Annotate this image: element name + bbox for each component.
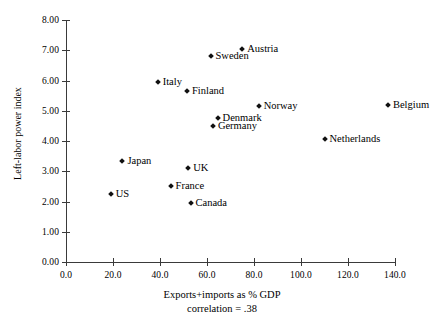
- y-axis-tick: [62, 111, 70, 112]
- diamond-marker-icon: [120, 158, 126, 164]
- data-point-label: US: [116, 188, 129, 199]
- x-axis-tick: [395, 258, 396, 266]
- diamond-marker-icon: [168, 184, 174, 190]
- x-axis-tick-label: 20.0: [93, 270, 133, 280]
- y-axis-tick-label: 7.00: [27, 45, 59, 55]
- data-point-label: Germany: [218, 120, 257, 131]
- data-point-label: France: [176, 180, 205, 191]
- x-axis-tick-label: 0.0: [46, 270, 86, 280]
- y-axis-tick: [62, 171, 70, 172]
- x-axis-tick: [160, 258, 161, 266]
- data-point-label: Italy: [163, 76, 182, 87]
- diamond-marker-icon: [184, 88, 190, 94]
- data-point-label: Finland: [192, 85, 224, 96]
- data-point-label: Austria: [247, 43, 278, 54]
- y-axis-tick-label: 5.00: [27, 106, 59, 116]
- y-axis-tick-label: 4.00: [27, 136, 59, 146]
- diamond-marker-icon: [155, 79, 161, 85]
- diamond-marker-icon: [322, 137, 328, 143]
- y-axis-tick-label: 6.00: [27, 76, 59, 86]
- x-axis-tick-label: 60.0: [187, 270, 227, 280]
- y-axis-tick-label: 1.00: [27, 227, 59, 237]
- x-axis-line: [66, 262, 395, 263]
- x-axis-tick: [66, 258, 67, 266]
- x-axis-tick: [254, 258, 255, 266]
- data-point-label: Norway: [264, 100, 298, 111]
- x-axis-tick-label: 100.0: [281, 270, 321, 280]
- x-axis-tick: [348, 258, 349, 266]
- y-axis-tick: [62, 232, 70, 233]
- x-axis-title: Exports+imports as % GDP: [0, 289, 444, 300]
- data-point-label: Canada: [196, 197, 228, 208]
- data-point-label: Japan: [127, 155, 151, 166]
- y-axis-tick-label: 2.00: [27, 197, 59, 207]
- data-point-label: Sweden: [216, 50, 249, 61]
- x-axis-tick-label: 120.0: [328, 270, 368, 280]
- diamond-marker-icon: [188, 200, 194, 206]
- data-point-label: Belgium: [393, 99, 429, 110]
- x-axis-tick: [207, 258, 208, 266]
- diamond-marker-icon: [385, 102, 391, 108]
- diamond-marker-icon: [208, 53, 214, 59]
- x-axis-tick: [301, 258, 302, 266]
- y-axis-tick-label: 3.00: [27, 166, 59, 176]
- y-axis-tick: [62, 20, 70, 21]
- y-axis-tick: [62, 81, 70, 82]
- y-axis-tick-label: 8.00: [27, 15, 59, 25]
- diamond-marker-icon: [210, 123, 216, 129]
- y-axis-tick-label: 0.00: [27, 257, 59, 267]
- scatter-plot: 0.001.002.003.004.005.006.007.008.00 0.0…: [0, 0, 444, 327]
- y-axis-tick: [62, 202, 70, 203]
- y-axis-tick: [62, 50, 70, 51]
- diamond-marker-icon: [256, 103, 262, 109]
- x-axis-tick-label: 140.0: [375, 270, 415, 280]
- y-axis-tick: [62, 141, 70, 142]
- x-axis-tick: [113, 258, 114, 266]
- diamond-marker-icon: [185, 165, 191, 171]
- correlation-annotation: correlation = .38: [0, 303, 444, 314]
- data-point-label: Netherlands: [330, 133, 381, 144]
- x-axis-tick-label: 40.0: [140, 270, 180, 280]
- data-point-label: UK: [193, 162, 208, 173]
- y-axis-title: Left-labor power index: [12, 54, 23, 214]
- diamond-marker-icon: [108, 191, 114, 197]
- x-axis-tick-label: 80.0: [234, 270, 274, 280]
